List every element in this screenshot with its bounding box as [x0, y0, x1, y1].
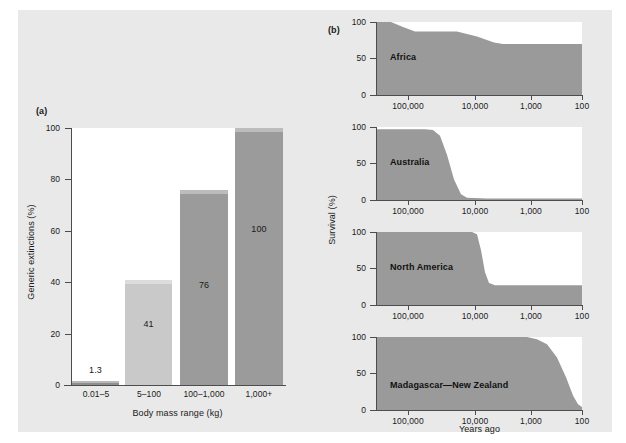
panel-a-ytick-60	[65, 231, 71, 232]
north-america-y-axis-line	[376, 232, 377, 306]
madagascar-new-zealand-area-svg	[377, 337, 582, 410]
north-america-x-axis-line	[370, 305, 583, 306]
australia-xlabel-10000: 10,000	[450, 206, 500, 216]
north-america-xlabel-100000: 100,000	[383, 311, 433, 321]
panel-a-ylabel-0: 0	[20, 380, 60, 390]
north-america-xlabel-1000: 1,000	[506, 311, 556, 321]
australia-ylabel-0: 0	[334, 195, 366, 205]
panel-b-x-axis-title: Years ago	[377, 424, 582, 434]
africa-xtick-100000	[408, 95, 409, 100]
africa-ytick-0	[370, 95, 376, 96]
north-america-xlabel-10000: 10,000	[450, 311, 500, 321]
africa-ytick-50	[370, 58, 376, 59]
panel-a-ylabel-100: 100	[20, 123, 60, 133]
africa-ylabel-0: 0	[334, 90, 366, 100]
north-america-ylabel-0: 0	[334, 300, 366, 310]
panel-a-ylabel-20: 20	[20, 329, 60, 339]
bar-0-category-label: 0.01–5	[70, 389, 122, 399]
bar-3	[235, 128, 283, 385]
north-america-ytick-0	[370, 305, 376, 306]
region-label-north-america: North America	[390, 262, 453, 272]
africa-xlabel-1000: 1,000	[506, 101, 556, 111]
africa-xlabel-100: 100	[557, 101, 607, 111]
madagascar-ytick-50	[370, 373, 376, 374]
region-label-africa: Africa	[390, 52, 416, 62]
bar-1-category-label: 5–100	[123, 389, 175, 399]
figure-root: (a) 100 80 60 40 20 0 Generic extinction…	[0, 0, 626, 443]
panel-a-y-axis-line	[71, 128, 72, 386]
bar-0-value-label: 1.3	[72, 365, 119, 375]
africa-xtick-10000	[475, 95, 476, 100]
madagascar-new-zealand-x-axis-line	[370, 410, 583, 411]
australia-xtick-1000	[531, 200, 532, 205]
panel-a-x-axis-title: Body mass range (kg)	[72, 408, 283, 418]
north-america-xtick-100	[582, 305, 583, 310]
bar-0-body	[72, 383, 119, 385]
panel-a-letter: (a)	[36, 106, 47, 116]
australia-xlabel-100000: 100,000	[383, 206, 433, 216]
north-america-xtick-100000	[408, 305, 409, 310]
australia-xtick-10000	[475, 200, 476, 205]
australia-ytick-0	[370, 200, 376, 201]
bar-0	[72, 381, 119, 385]
subplot-madagascar-new-zealand-plot-area	[377, 337, 582, 410]
madagascar-new-zealand-y-axis-line	[376, 337, 377, 411]
region-label-australia: Australia	[390, 157, 429, 167]
bar-1-value-label: 41	[125, 319, 172, 329]
bar-3-category-label: 1,000+	[233, 389, 285, 399]
africa-ylabel-50: 50	[334, 53, 366, 63]
australia-xlabel-100: 100	[557, 206, 607, 216]
madagascar-ylabel-0: 0	[334, 405, 366, 415]
panel-a-ytick-40	[65, 282, 71, 283]
australia-ylabel-50: 50	[334, 158, 366, 168]
north-america-ylabel-100: 100	[334, 227, 366, 237]
australia-y-axis-line	[376, 127, 377, 201]
africa-xlabel-10000: 10,000	[450, 101, 500, 111]
panel-a-ytick-0	[65, 385, 71, 386]
panel-a-ytick-100	[65, 128, 71, 129]
bar-3-value-label: 100	[235, 224, 283, 234]
north-america-xlabel-100: 100	[557, 311, 607, 321]
australia-ytick-50	[370, 163, 376, 164]
panel-a-ytick-20	[65, 334, 71, 335]
bar-1	[125, 280, 172, 385]
north-america-xtick-10000	[475, 305, 476, 310]
panel-a-ytick-80	[65, 179, 71, 180]
bar-2-category-label: 100–1,000	[176, 389, 232, 399]
panel-a-y-axis-title: Generic extinctions (%)	[26, 177, 36, 327]
australia-xtick-100	[582, 200, 583, 205]
madagascar-ytick-0	[370, 410, 376, 411]
madagascar-xtick-100000	[408, 410, 409, 415]
panel-a-x-axis-line	[64, 385, 286, 386]
africa-y-axis-line	[376, 22, 377, 96]
madagascar-ylabel-50: 50	[334, 368, 366, 378]
panel-a-bar-chart: (a) 100 80 60 40 20 0 Generic extinction…	[0, 0, 320, 443]
madagascar-ytick-100	[370, 337, 376, 338]
bar-1-body	[125, 284, 172, 385]
africa-x-axis-line	[370, 95, 583, 96]
north-america-ylabel-50: 50	[334, 263, 366, 273]
madagascar-xtick-1000	[531, 410, 532, 415]
africa-xtick-100	[582, 95, 583, 100]
australia-xlabel-1000: 1,000	[506, 206, 556, 216]
madagascar-xtick-10000	[475, 410, 476, 415]
north-america-ytick-100	[370, 232, 376, 233]
bar-2-value-label: 76	[180, 280, 228, 290]
africa-ytick-100	[370, 22, 376, 23]
madagascar-ylabel-100: 100	[334, 332, 366, 342]
australia-xtick-100000	[408, 200, 409, 205]
africa-xlabel-100000: 100,000	[383, 101, 433, 111]
australia-ytick-100	[370, 127, 376, 128]
madagascar-xtick-100	[582, 410, 583, 415]
africa-xtick-1000	[531, 95, 532, 100]
panel-b-survival-charts: (b) Survival (%) 100 50 0 100,000 10,000…	[320, 0, 626, 443]
north-america-xtick-1000	[531, 305, 532, 310]
australia-x-axis-line	[370, 200, 583, 201]
australia-ylabel-100: 100	[334, 122, 366, 132]
bar-3-body	[235, 132, 283, 385]
region-label-madagascar-new-zealand: Madagascar—New Zealand	[390, 380, 508, 390]
north-america-ytick-50	[370, 268, 376, 269]
africa-ylabel-100: 100	[334, 17, 366, 27]
